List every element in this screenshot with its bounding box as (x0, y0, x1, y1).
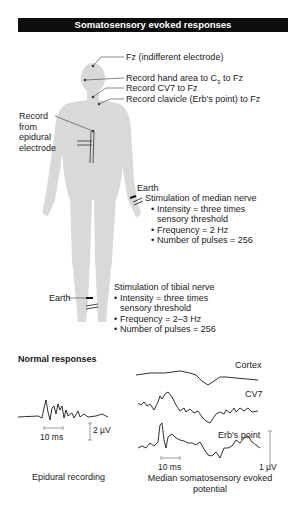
median-caption: Median somatosensory evoked potential (130, 473, 290, 494)
hand-area-text: Record hand area to C (126, 73, 217, 83)
median-heading: Stimulation of median nerve (145, 193, 285, 204)
erbs-point-label: Erb's point (218, 430, 260, 441)
tibial-heading: Stimulation of tibial nerve (114, 282, 254, 293)
erbs-point-trace (138, 423, 260, 458)
tibial-earth-label: Earth (49, 293, 71, 304)
median-stimulation-block: Stimulation of median nerve •Intensity =… (145, 193, 285, 246)
epidural-time-scale: 10 ms (40, 432, 63, 442)
fz-label: Fz (indifferent electrode) (126, 52, 223, 63)
epidural-amp-scale: 2 µV (93, 425, 111, 435)
cv7-trace-label: CV7 (245, 389, 263, 400)
hand-area-suffix: to Fz (220, 73, 243, 83)
tibial-bullet: •Intensity = three times sensory thresho… (114, 293, 224, 314)
median-earth-label: Earth (137, 183, 159, 194)
median-caption-line: Median somatosensory evoked (130, 473, 290, 484)
epidural-trace (18, 400, 108, 420)
median-time-scale: 10 ms (158, 462, 181, 472)
normal-responses-heading: Normal responses (18, 354, 97, 365)
median-bullet: •Number of pulses = 256 (151, 235, 261, 246)
cv7-trace (138, 392, 258, 423)
median-bullet: •Frequency = 2 Hz (151, 225, 261, 236)
tibial-stimulation-block: Stimulation of tibial nerve •Intensity =… (114, 282, 254, 335)
tibial-bullet: •Number of pulses = 256 (114, 324, 224, 335)
cortex-label: Cortex (235, 360, 262, 371)
epidural-electrode-label: Record from epidural electrode (19, 111, 56, 153)
tibial-bullet: •Frequency = 2–3 Hz (114, 314, 224, 325)
epidural-label-line: Record (19, 111, 56, 122)
epidural-caption: Epidural recording (32, 472, 105, 483)
epidural-label-line: from (19, 122, 56, 133)
epidural-label-line: electrode (19, 143, 56, 154)
median-caption-line: potential (130, 484, 290, 495)
cortex-trace (136, 371, 258, 385)
median-bullet: •Intensity = three times sensory thresho… (151, 204, 261, 225)
median-amp-scale: 1 µV (259, 462, 277, 472)
epidural-label-line: epidural (19, 132, 56, 143)
cv7-label: Record CV7 to Fz (126, 83, 198, 94)
clavicle-label: Record clavicle (Erb's point) to Fz (126, 94, 260, 105)
